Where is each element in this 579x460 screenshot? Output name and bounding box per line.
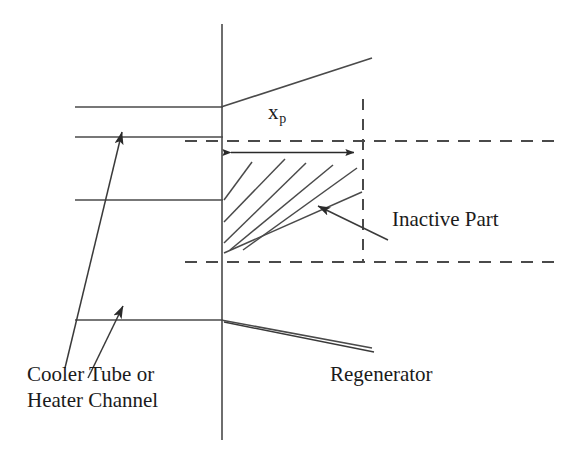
- dimension-label-xp-subscript: p: [279, 111, 286, 126]
- leader-cooler-tube-line: [65, 132, 122, 368]
- label-cooler-tube-line1: Cooler Tube or: [27, 362, 154, 386]
- figure-root: xp Inactive Part Cooler Tube orHeater Ch…: [0, 0, 579, 460]
- hatch-line: [224, 163, 306, 243]
- leader-inactive-part: [318, 206, 388, 240]
- hatch-line: [230, 165, 333, 250]
- regenerator-wall-group: [221, 58, 372, 348]
- leader-inactive-part-line: [318, 206, 388, 240]
- regenerator-wall-upper: [221, 58, 372, 107]
- hatch-line: [224, 162, 252, 200]
- leader-regenerator: [224, 322, 374, 352]
- dashed-reference-group: [185, 99, 556, 263]
- inactive-part-hatching: [224, 159, 362, 253]
- regenerator-wall-lower: [221, 320, 372, 348]
- label-regenerator: Regenerator: [330, 362, 433, 388]
- leader-cooler-tube: [65, 132, 122, 368]
- label-cooler-tube-heater-channel: Cooler Tube orHeater Channel: [27, 362, 158, 413]
- channel-wall-group: [75, 107, 223, 320]
- dimension-label-xp-symbol: x: [268, 100, 279, 124]
- label-cooler-tube-line2: Heater Channel: [27, 388, 158, 412]
- leader-regenerator-line: [224, 322, 374, 352]
- dimension-label-xp: xp: [268, 100, 286, 127]
- label-inactive-part: Inactive Part: [392, 207, 499, 233]
